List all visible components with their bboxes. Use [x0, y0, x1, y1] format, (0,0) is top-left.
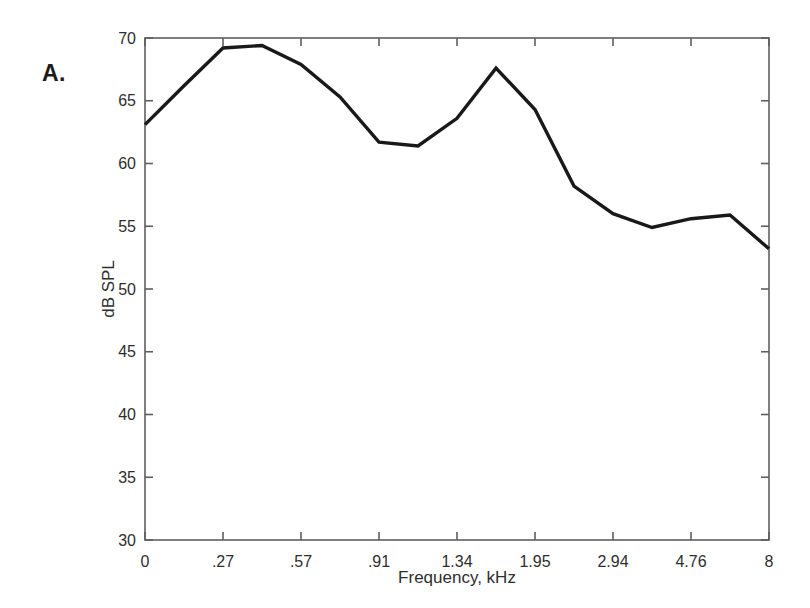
y-tick-label: 60: [118, 155, 136, 172]
y-tick-label: 55: [118, 218, 136, 235]
x-tick-label: 2.94: [597, 553, 628, 570]
x-tick-label: 0: [141, 553, 150, 570]
y-tick-label: 30: [118, 532, 136, 549]
x-tick-label: 8: [765, 553, 774, 570]
x-tick-label: .27: [212, 553, 234, 570]
x-tick-label: 4.76: [675, 553, 706, 570]
y-tick-label: 50: [118, 281, 136, 298]
x-tick-label: .57: [290, 553, 312, 570]
spl-frequency-line-chart: 0.27.57.911.341.952.944.7683035404550556…: [0, 0, 810, 608]
plot-frame: [145, 38, 769, 540]
x-axis-title: Frequency, kHz: [398, 568, 516, 587]
x-tick-label: .91: [368, 553, 390, 570]
y-tick-label: 45: [118, 343, 136, 360]
y-axis-title: dB SPL: [99, 260, 118, 318]
y-tick-label: 65: [118, 92, 136, 109]
y-tick-label: 35: [118, 469, 136, 486]
y-tick-label: 40: [118, 406, 136, 423]
plot-border: [145, 38, 769, 540]
y-tick-label: 70: [118, 30, 136, 47]
x-tick-label: 1.95: [519, 553, 550, 570]
figure-panel: A. 0.27.57.911.341.952.944.7683035404550…: [0, 0, 810, 608]
